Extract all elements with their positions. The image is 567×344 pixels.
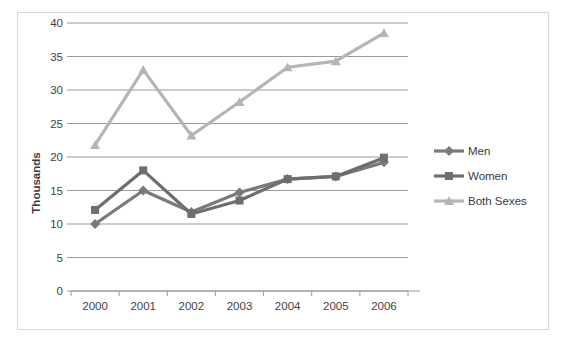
gridlines xyxy=(71,23,408,291)
y-axis-ticks xyxy=(67,23,71,291)
y-tick-label: 5 xyxy=(57,252,63,264)
y-axis-title: Thousands xyxy=(30,152,42,213)
data-point-marker xyxy=(138,65,148,74)
series-both-sexes xyxy=(90,28,389,149)
data-point-marker xyxy=(139,166,147,174)
legend-item-both-sexes[interactable]: Both Sexes xyxy=(434,195,527,207)
y-tick-label: 25 xyxy=(50,118,63,130)
line-chart: 0510152025303540 20002001200220032004200… xyxy=(18,13,550,331)
data-point-marker xyxy=(284,175,292,183)
y-tick-label: 15 xyxy=(50,185,63,197)
chart-frame: 0510152025303540 20002001200220032004200… xyxy=(17,12,549,330)
y-tick-label: 40 xyxy=(50,17,63,29)
x-tick-label: 2004 xyxy=(275,300,301,312)
series-men xyxy=(90,157,389,229)
x-tick-label: 2001 xyxy=(130,300,156,312)
y-tick-label: 30 xyxy=(50,84,63,96)
y-axis-tick-labels: 0510152025303540 xyxy=(50,17,63,297)
legend-label: Women xyxy=(468,170,507,182)
data-point-marker xyxy=(444,146,454,156)
y-tick-label: 10 xyxy=(50,218,63,230)
y-tick-label: 35 xyxy=(50,51,63,63)
series-line xyxy=(95,158,384,214)
data-point-marker xyxy=(380,154,388,162)
x-tick-label: 2002 xyxy=(179,300,205,312)
data-point-marker xyxy=(236,197,244,205)
x-tick-label: 2003 xyxy=(227,300,253,312)
data-point-marker xyxy=(91,206,99,214)
data-point-marker xyxy=(379,28,389,37)
data-point-marker xyxy=(332,172,340,180)
x-tick-label: 2006 xyxy=(371,300,397,312)
data-series-group xyxy=(90,28,389,229)
y-tick-label: 0 xyxy=(57,285,63,297)
y-tick-label: 20 xyxy=(50,151,63,163)
data-point-marker xyxy=(235,188,245,198)
legend-item-women[interactable]: Women xyxy=(434,170,507,182)
legend-label: Men xyxy=(468,145,490,157)
page-top-margin xyxy=(0,0,567,11)
data-point-marker xyxy=(187,210,195,218)
x-tick-label: 2005 xyxy=(323,300,349,312)
legend-label: Both Sexes xyxy=(468,195,527,207)
series-line xyxy=(95,33,384,145)
x-tick-label: 2000 xyxy=(82,300,108,312)
legend-item-men[interactable]: Men xyxy=(434,145,490,157)
x-axis-tick-labels: 2000200120022003200420052006 xyxy=(82,300,396,312)
chart-plot-area: 0510152025303540 20002001200220032004200… xyxy=(18,13,548,329)
x-axis-ticks xyxy=(71,291,408,296)
data-point-marker xyxy=(445,172,453,180)
chart-legend: MenWomenBoth Sexes xyxy=(434,145,527,207)
series-women xyxy=(91,154,388,218)
